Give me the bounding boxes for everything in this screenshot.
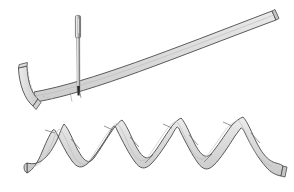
zigzag-left-end-cap: [24, 163, 27, 173]
zigzag-ribbon-group: [24, 117, 287, 177]
illustration-svg: Needle piercing a curved band above a zi…: [0, 0, 294, 192]
upper-band-group: [19, 10, 280, 110]
needle-eye-icon: [78, 19, 80, 34]
fold-mark-10: [223, 122, 232, 126]
needle-pierce-point: [77, 86, 80, 96]
figure-canvas: Needle piercing a curved band above a zi…: [0, 0, 294, 192]
upper-band-strip: [34, 11, 276, 102]
